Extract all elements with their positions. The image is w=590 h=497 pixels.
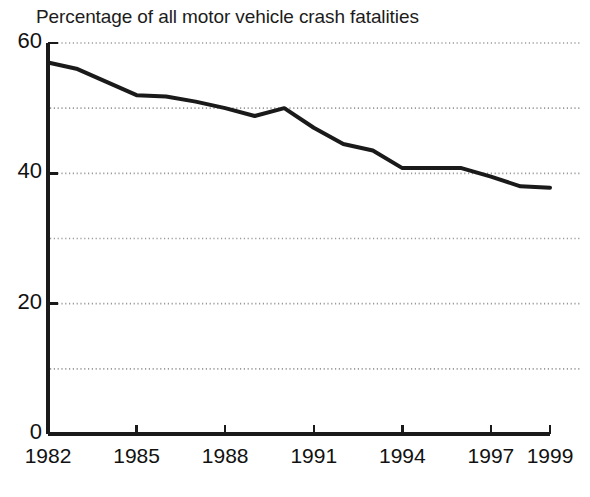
x-tick-label: 1982: [12, 444, 84, 468]
x-tick-label: 1988: [189, 444, 261, 468]
data-series-line: [48, 63, 550, 188]
x-tick-label: 1985: [101, 444, 173, 468]
y-tick-label: 60: [18, 28, 42, 54]
y-tick-label: 0: [30, 419, 42, 445]
x-tick-label: 1999: [514, 444, 586, 468]
y-tick-label: 40: [18, 158, 42, 184]
chart-container: Percentage of all motor vehicle crash fa…: [0, 0, 590, 497]
x-tick-label: 1991: [278, 444, 350, 468]
plot-area: [0, 0, 590, 497]
x-tick-label: 1994: [366, 444, 438, 468]
y-tick-label: 20: [18, 289, 42, 315]
